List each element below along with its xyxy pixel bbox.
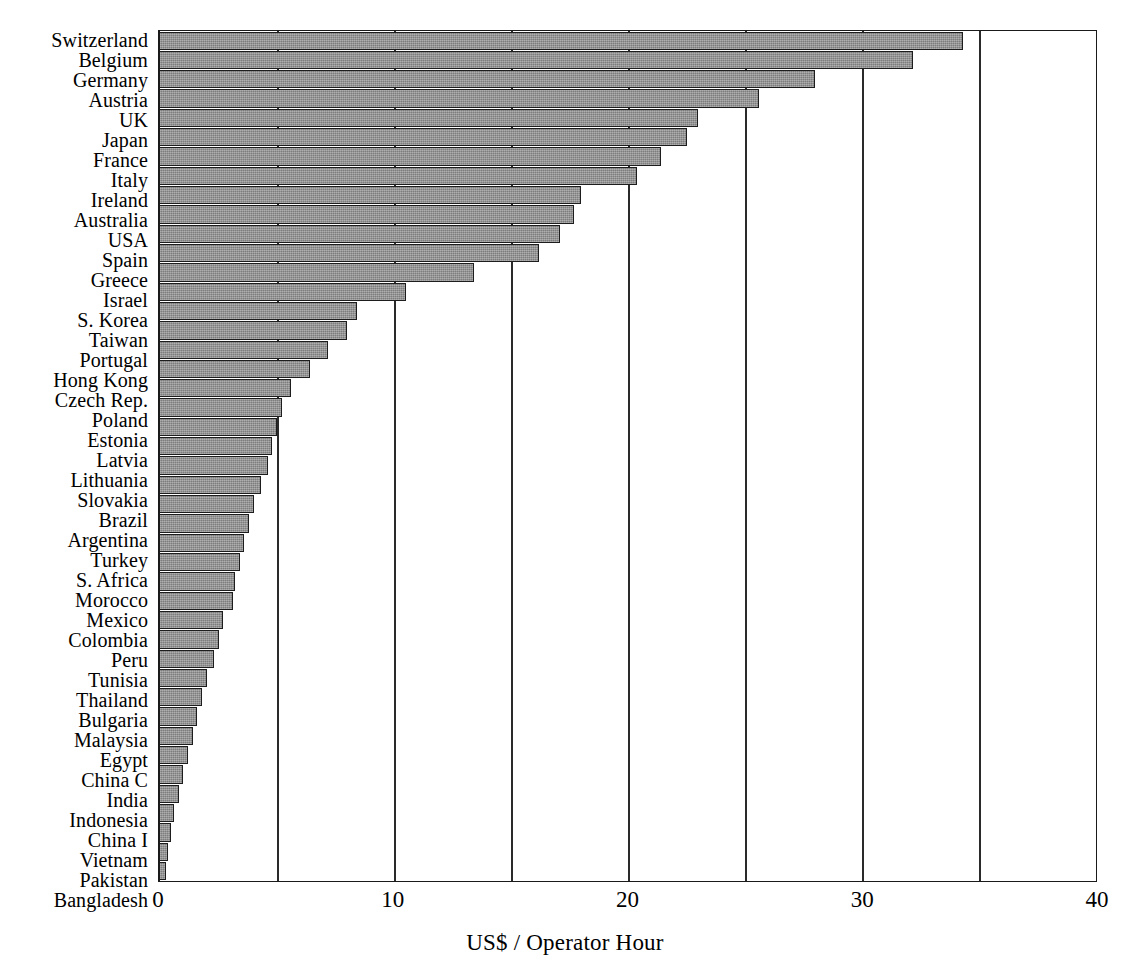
bar-row	[160, 591, 1096, 610]
bar	[159, 592, 233, 610]
bar	[159, 456, 268, 474]
category-label: Lithuania	[0, 470, 155, 490]
bar-row	[160, 456, 1096, 475]
bar	[159, 514, 249, 532]
bar	[159, 553, 240, 571]
bar	[159, 398, 282, 416]
bar-row	[160, 186, 1096, 205]
category-label: Argentina	[0, 530, 155, 550]
bar-row	[160, 301, 1096, 320]
bar	[159, 688, 202, 706]
category-label: Latvia	[0, 450, 155, 470]
bar	[159, 823, 171, 841]
bar	[159, 495, 254, 513]
bar	[159, 205, 574, 223]
bar-row	[160, 688, 1096, 707]
bar	[159, 611, 223, 629]
category-label: Slovakia	[0, 490, 155, 510]
bar-row	[160, 50, 1096, 69]
bar-row	[160, 475, 1096, 494]
bar-row	[160, 166, 1096, 185]
category-label: Germany	[0, 70, 155, 90]
bar-row	[160, 804, 1096, 823]
category-label: China I	[0, 830, 155, 850]
bar	[159, 707, 197, 725]
category-label: Tunisia	[0, 670, 155, 690]
bar-row	[160, 437, 1096, 456]
bar-row	[160, 379, 1096, 398]
category-label: Ireland	[0, 190, 155, 210]
category-label: Peru	[0, 650, 155, 670]
bar-row	[160, 746, 1096, 765]
bar	[159, 89, 759, 107]
category-label: Portugal	[0, 350, 155, 370]
category-label: Austria	[0, 90, 155, 110]
bar-row	[160, 823, 1096, 842]
plot-area	[158, 30, 1097, 882]
category-label: China C	[0, 770, 155, 790]
category-label: Hong Kong	[0, 370, 155, 390]
category-label: Spain	[0, 250, 155, 270]
bar	[159, 51, 913, 69]
category-axis-labels: SwitzerlandBelgiumGermanyAustriaUKJapanF…	[0, 30, 155, 882]
bar	[159, 70, 815, 88]
bar	[159, 746, 188, 764]
bar-series	[160, 31, 1096, 881]
bar-row	[160, 108, 1096, 127]
bar	[159, 418, 277, 436]
bar	[159, 379, 291, 397]
bar	[159, 321, 347, 339]
x-tick-label: 0	[152, 888, 164, 911]
bar	[159, 244, 539, 262]
category-label: Taiwan	[0, 330, 155, 350]
category-label: Switzerland	[0, 30, 155, 50]
bar	[159, 128, 687, 146]
category-label: Israel	[0, 290, 155, 310]
bar	[159, 669, 207, 687]
bar-row	[160, 359, 1096, 378]
bar	[159, 476, 261, 494]
bar-row	[160, 610, 1096, 629]
bar-row	[160, 707, 1096, 726]
bar	[159, 534, 244, 552]
category-label: Czech Rep.	[0, 390, 155, 410]
bar	[159, 32, 963, 50]
x-tick-label: 20	[616, 888, 639, 911]
bar	[159, 186, 581, 204]
bar	[159, 360, 310, 378]
bar-row	[160, 668, 1096, 687]
bar	[159, 437, 272, 455]
bar-row	[160, 128, 1096, 147]
bar-row	[160, 398, 1096, 417]
bar	[159, 225, 560, 243]
category-label: Pakistan	[0, 870, 155, 890]
bar-row	[160, 495, 1096, 514]
bar-row	[160, 552, 1096, 571]
bar	[159, 572, 235, 590]
category-label: Morocco	[0, 590, 155, 610]
category-label: Belgium	[0, 50, 155, 70]
category-label: Egypt	[0, 750, 155, 770]
category-label: Turkey	[0, 550, 155, 570]
bar	[159, 283, 406, 301]
x-tick-label: 40	[1086, 888, 1109, 911]
category-label: UK	[0, 110, 155, 130]
bar-row	[160, 861, 1096, 880]
bar	[159, 630, 219, 648]
category-label: Poland	[0, 410, 155, 430]
bar-row	[160, 842, 1096, 861]
category-label: Brazil	[0, 510, 155, 530]
category-label: Indonesia	[0, 810, 155, 830]
bar-row	[160, 784, 1096, 803]
category-label: S. Africa	[0, 570, 155, 590]
bar	[159, 341, 328, 359]
bar	[159, 650, 214, 668]
category-label: France	[0, 150, 155, 170]
bar-row	[160, 417, 1096, 436]
bar-row	[160, 70, 1096, 89]
category-label: Bangladesh	[0, 890, 155, 910]
bar-row	[160, 243, 1096, 262]
bar	[159, 263, 474, 281]
bar-row	[160, 765, 1096, 784]
bar	[159, 804, 174, 822]
